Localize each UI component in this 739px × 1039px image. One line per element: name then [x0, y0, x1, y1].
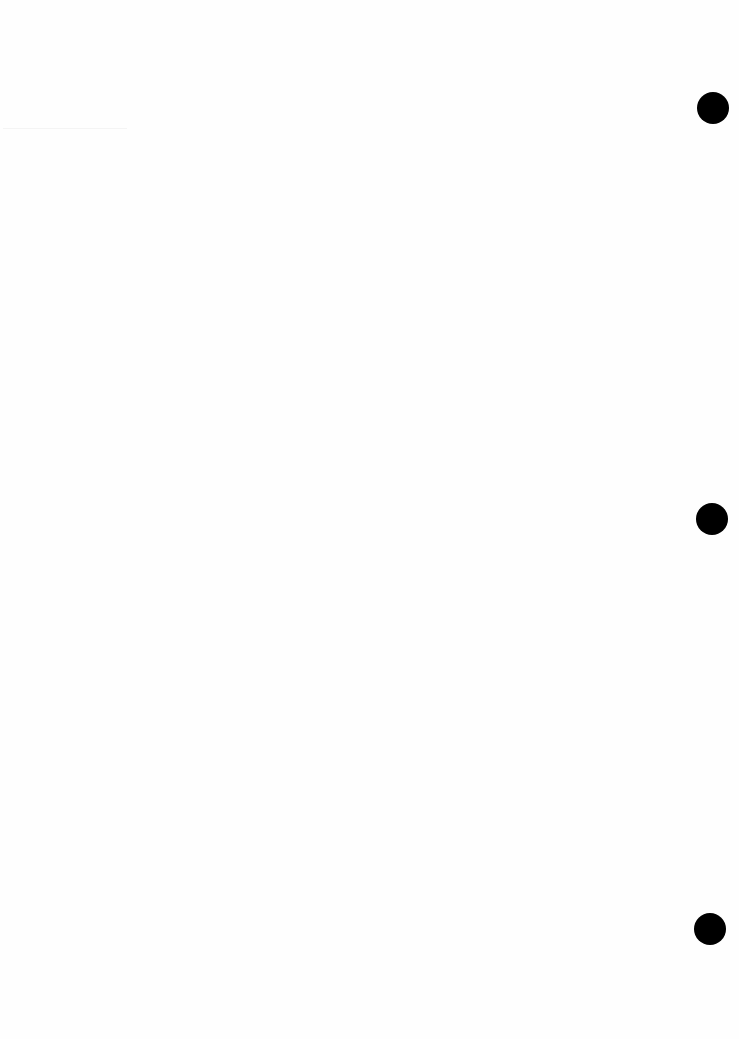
- faint-scan-line: [3, 128, 127, 129]
- punch-hole-top: [697, 92, 729, 124]
- punch-hole-bottom: [694, 913, 726, 945]
- blank-page: [0, 0, 739, 1039]
- punch-hole-middle: [696, 503, 728, 535]
